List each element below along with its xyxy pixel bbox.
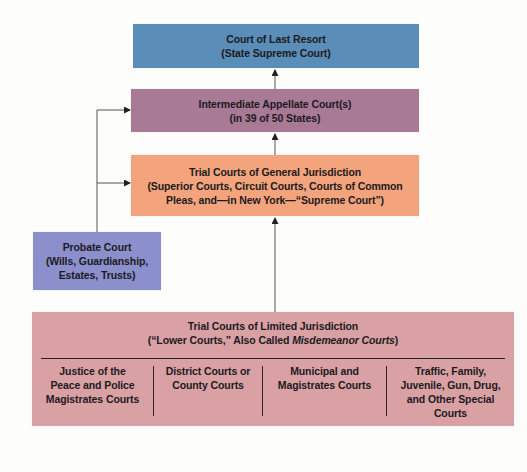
court-type-special: Traffic, Family, Juvenile, Gun, Drug, an… (387, 364, 514, 420)
limited-title: Trial Courts of Limited Jurisdiction (32, 319, 514, 333)
col-line: Juvenile, Gun, Drug, (387, 378, 514, 392)
general-line3: Pleas, and—in New York—“Supreme Court”) (166, 193, 384, 207)
court-of-last-resort-box: Court of Last Resort (State Supreme Cour… (133, 24, 419, 68)
col-line: Justice of the (32, 364, 153, 378)
court-type-justice-of-peace: Justice of the Peace and Police Magistra… (32, 364, 153, 406)
col-line: District Courts or (154, 364, 262, 378)
probate-court-box: Probate Court (Wills, Guardianship, Esta… (33, 232, 161, 290)
col-line: and Other Special (387, 392, 514, 406)
limited-jurisdiction-box: Trial Courts of Limited Jurisdiction (“L… (32, 312, 514, 426)
col-line: County Courts (154, 378, 262, 392)
intermediate-appellate-box: Intermediate Appellate Court(s) (in 39 o… (131, 89, 419, 132)
general-jurisdiction-box: Trial Courts of General Jurisdiction (Su… (131, 155, 419, 216)
court-type-municipal: Municipal and Magistrates Courts (263, 364, 386, 392)
limited-subtitle-italic: Misdemeanor Courts (292, 334, 395, 346)
court-type-district-county: District Courts or County Courts (154, 364, 262, 392)
probate-line3: Estates, Trusts) (59, 268, 136, 282)
col-line: Magistrates Courts (263, 378, 386, 392)
col-line: Magistrates Courts (32, 392, 153, 406)
supreme-subtitle: (State Supreme Court) (221, 46, 330, 60)
appellate-subtitle: (in 39 of 50 States) (230, 111, 321, 125)
col-line: Courts (387, 406, 514, 420)
limited-subtitle-prefix: (“Lower Courts,” Also Called (148, 334, 292, 346)
col-line: Municipal and (263, 364, 386, 378)
limited-subtitle: (“Lower Courts,” Also Called Misdemeanor… (32, 333, 514, 347)
limited-header: Trial Courts of Limited Jurisdiction (“L… (32, 319, 514, 347)
limited-subtitle-suffix: ) (395, 334, 398, 346)
supreme-title: Court of Last Resort (226, 32, 326, 46)
probate-line2: (Wills, Guardianship, (46, 254, 148, 268)
probate-title: Probate Court (63, 240, 132, 254)
col-line: Peace and Police (32, 378, 153, 392)
general-line2: (Superior Courts, Circuit Courts, Courts… (147, 179, 402, 193)
col-line: Traffic, Family, (387, 364, 514, 378)
general-title: Trial Courts of General Jurisdiction (189, 165, 361, 179)
header-divider (41, 358, 505, 359)
appellate-title: Intermediate Appellate Court(s) (199, 97, 352, 111)
